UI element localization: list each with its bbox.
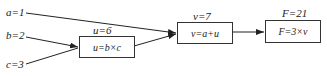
input-a-label: a=1 — [6, 7, 24, 18]
node-u-box: u=b×c — [79, 36, 135, 58]
node-u-value: u=6 — [93, 25, 111, 36]
node-F-formula: F=3×v — [278, 26, 307, 37]
input-c-label: c=3 — [6, 59, 24, 70]
node-F-box: F=3×v — [265, 20, 321, 43]
node-F-value: F=21 — [282, 8, 307, 19]
node-v-box: v=a+u — [177, 22, 233, 44]
node-u-formula: u=b×c — [93, 42, 121, 53]
edge-c-to-u — [26, 48, 78, 64]
edge-b-to-u — [26, 37, 78, 47]
node-v-value: v=7 — [193, 11, 211, 22]
node-v-formula: v=a+u — [191, 28, 219, 39]
edge-u-to-v — [134, 34, 176, 46]
input-b-label: b=2 — [6, 30, 24, 41]
